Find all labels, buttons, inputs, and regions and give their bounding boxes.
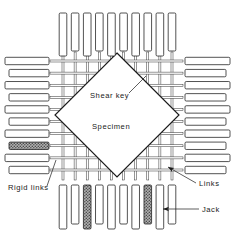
jack [144,13,152,51]
jack [71,185,79,224]
jack-body [156,185,164,229]
jack-body [108,13,116,56]
jack [185,154,230,161]
jack-body [5,154,49,161]
jack [120,185,128,224]
jack [5,106,49,113]
jack-body [132,185,140,229]
jack [132,185,140,229]
rigid-link-body [83,185,91,229]
jack [5,154,49,161]
shear-key-annotation-text: Shear key [90,91,129,100]
jack-body [185,69,226,76]
jack [185,130,230,137]
rigid-link [83,185,91,229]
jack [5,82,49,89]
jack-body [168,13,176,51]
jack [185,94,226,101]
jack-body [168,185,176,224]
jack-body [71,13,79,51]
rigid-link-body [9,142,49,149]
jack-body [71,185,79,224]
jack-body [83,13,91,56]
jack-body [120,13,128,51]
jack [168,13,176,51]
rigid-link [144,185,152,224]
jack [83,13,91,56]
jack-body [185,166,226,173]
jack-body [9,69,49,76]
jack-body [120,185,128,224]
jack [9,94,49,101]
jack [185,57,230,64]
jack-body [185,142,226,149]
jack [185,82,230,89]
jack [96,13,104,51]
jack [120,13,128,51]
jack-body [144,13,152,51]
rigid-links-annotation-text: Rigid links [8,183,49,192]
links-annotation-text: Links [199,179,219,188]
jack-body [156,13,164,56]
specimen-annotation: Specimen [92,122,130,131]
jack [96,185,104,224]
jack [5,57,49,64]
jack-body [5,106,49,113]
jack [108,185,116,229]
jack [185,106,230,113]
jack [9,166,49,173]
jack-body [108,185,116,229]
jack-body [9,118,49,125]
jack-body [132,13,140,56]
jack [185,142,226,149]
jack-body [5,57,49,64]
jack [168,185,176,224]
jack-body [59,13,67,56]
diagram-canvas: Shear keySpecimenRigid linksLinksJack [0,0,234,239]
jack [156,185,164,229]
jack [9,118,49,125]
jack [156,13,164,56]
jack-body [96,13,104,51]
jack-body [185,57,230,64]
biaxial-apparatus-figure: Shear keySpecimenRigid linksLinksJack [0,0,234,239]
jack-body [9,94,49,101]
jack [5,130,49,137]
jack-body [185,82,230,89]
jack-body [9,166,49,173]
rigid-link-body [144,185,152,224]
rigid-link [9,142,49,149]
jack [132,13,140,56]
jack-annotation-text: Jack [202,205,220,214]
specimen-annotation-text: Specimen [92,122,130,131]
jack-body [185,118,226,125]
jack [108,13,116,56]
jack [9,69,49,76]
jack-body [185,94,226,101]
jack-body [59,185,67,229]
jack [59,13,67,56]
jack-body [5,130,49,137]
jack [71,13,79,51]
jack [185,166,226,173]
jack [185,69,226,76]
jack-body [185,106,230,113]
jack-body [5,82,49,89]
jack-body [185,130,230,137]
jack-body [185,154,230,161]
jack-body [96,185,104,224]
jack [59,185,67,229]
jack [185,118,226,125]
